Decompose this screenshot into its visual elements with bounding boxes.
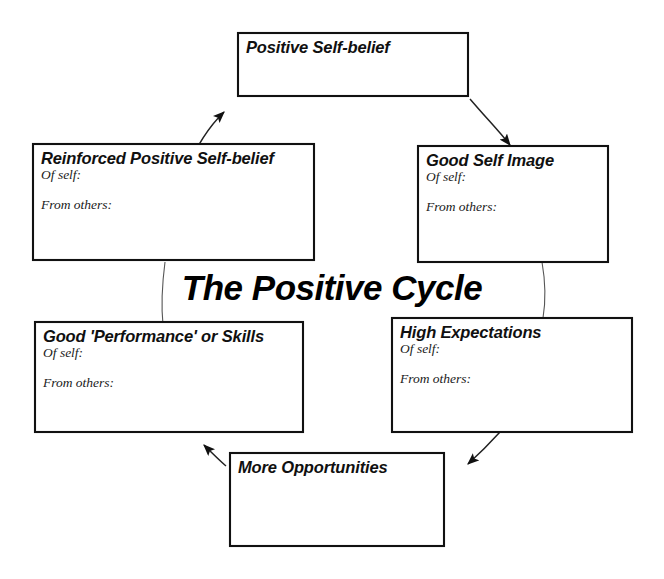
- node-more-opportunities[interactable]: More Opportunities: [230, 453, 444, 546]
- label-of-self: Of self:: [41, 168, 314, 182]
- diagram-center-title: The Positive Cycle: [0, 268, 664, 308]
- label-from-others: From others:: [43, 376, 303, 390]
- node-title: Reinforced Positive Self-belief: [41, 149, 314, 167]
- node-title: Good 'Performance' or Skills: [43, 327, 303, 345]
- node-good-self-image[interactable]: Good Self Image Of self: From others:: [418, 146, 608, 262]
- label-from-others: From others:: [400, 372, 632, 386]
- label-of-self: Of self:: [43, 346, 303, 360]
- label-of-self: Of self:: [400, 342, 632, 356]
- node-high-expectations[interactable]: High Expectations Of self: From others:: [392, 318, 632, 432]
- label-from-others: From others:: [41, 198, 314, 212]
- edge-more-opportunities-to-performance: [204, 445, 226, 466]
- node-good-performance-or-skills[interactable]: Good 'Performance' or Skills Of self: Fr…: [35, 322, 303, 432]
- node-title: Positive Self-belief: [246, 38, 468, 56]
- edge-high-expectations-to-more-opportunities: [468, 432, 500, 464]
- label-of-self: Of self:: [426, 170, 608, 184]
- node-title: More Opportunities: [238, 458, 444, 476]
- node-title: High Expectations: [400, 323, 632, 341]
- edge-positive-to-good-self-image: [470, 99, 510, 145]
- node-title: Good Self Image: [426, 151, 608, 169]
- label-from-others: From others:: [426, 200, 608, 214]
- node-positive-self-belief[interactable]: Positive Self-belief: [238, 33, 468, 96]
- diagram-page: Positive Self-belief Good Self Image Of …: [0, 0, 664, 579]
- node-reinforced-positive-self-belief[interactable]: Reinforced Positive Self-belief Of self:…: [33, 144, 314, 260]
